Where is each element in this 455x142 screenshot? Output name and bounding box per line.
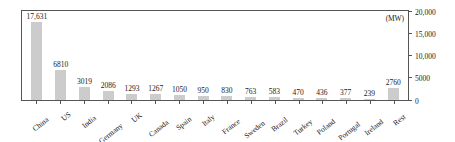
bar-value-label: 2760 [386,78,401,87]
x-axis-label-brazil: Brazil [284,104,304,122]
bar-value-label: 377 [340,88,351,97]
bar [364,99,375,101]
bar-value-label: 17,631 [27,12,48,21]
bar-value-label: 3019 [77,77,92,86]
x-axis-label-text: Italy [200,112,216,128]
x-axis-label-italy: Italy [211,104,227,120]
bar [245,97,256,100]
bar-slot: 763 [239,11,263,100]
x-axis-label-us: US [67,104,80,117]
bar-slot: 1293 [120,11,144,100]
bar-slot: 583 [263,11,287,100]
bar-slot: 2086 [96,11,120,100]
bar-slot: 377 [334,11,358,100]
bar-slot: 830 [215,11,239,100]
bar-value-label: 763 [245,87,256,96]
x-axis-labels: ChinaUSIndiaGermanyUKCanadaSpainItalyFra… [21,104,409,142]
bar-slot: 950 [191,11,215,100]
bar-slot: 17,631 [25,11,49,100]
y-tick-mark [409,55,412,56]
bar-value-label: 2086 [101,81,116,90]
bar-slot: 3019 [73,11,97,100]
bar-value-label: 6810 [53,60,68,69]
bar [103,91,114,100]
x-axis-label-text: Germany [96,121,124,142]
bar [79,87,90,100]
bar [293,98,304,100]
bar [150,94,161,100]
bar-slot: 2760 [381,11,405,100]
x-axis-label-france: France [236,104,258,124]
y-tick-mark [409,11,412,12]
bar-slot: 1050 [168,11,192,100]
y-tick-mark [409,33,412,34]
bar-value-label: 1050 [172,85,187,94]
bar-value-label: 950 [198,86,209,95]
y-tick-label: 5000 [415,74,430,83]
x-axis-label-text: Portugal [337,120,363,142]
x-axis-label-rest: Rest [402,104,418,119]
x-axis-label-text: Turkey [291,117,313,137]
x-axis-label-india: India [92,104,110,121]
x-axis-label-text: Sweden [242,119,266,141]
bar-value-label: 583 [269,87,280,96]
bar-slot: 1267 [144,11,168,100]
plot-area: (MW) 17,63168103019208612931267105095083… [21,10,409,101]
x-axis-label-text: Canada [147,118,170,139]
bar-value-label: 1293 [124,84,139,93]
x-axis-label-text: India [80,113,98,130]
bar [174,95,185,100]
bar-slot: 6810 [49,11,73,100]
bar [316,98,327,100]
bar [31,22,42,100]
x-axis-label-text: China [31,115,51,133]
y-axis: 20,00015,00010,00050000 [409,10,455,101]
bar [221,96,232,100]
bar [55,70,66,100]
y-tick-mark [409,100,412,101]
bar [388,88,399,100]
bar-series: 17,6316810301920861293126710509508307635… [22,11,408,100]
bar-value-label: 470 [293,88,304,97]
bar [269,97,280,100]
y-tick-label: 20,000 [415,7,436,16]
y-tick-label: 0 [415,96,419,105]
bar-value-label: 239 [364,89,375,98]
bar [198,96,209,100]
bar [340,98,351,100]
x-axis-label-poland: Poland [332,104,354,124]
y-tick-label: 15,000 [415,29,436,38]
bar-value-label: 1267 [148,84,163,93]
bar-slot: 436 [310,11,334,100]
y-tick-mark [409,77,412,78]
y-tick-label: 10,000 [415,52,436,61]
bar-chart: (MW) 17,63168103019208612931267105095083… [0,0,455,142]
bar-slot: 470 [286,11,310,100]
bar [126,94,137,100]
bar-value-label: 830 [221,86,232,95]
bar-value-label: 436 [316,88,327,97]
bar-slot: 239 [358,11,382,100]
x-axis-label-text: France [220,117,242,137]
